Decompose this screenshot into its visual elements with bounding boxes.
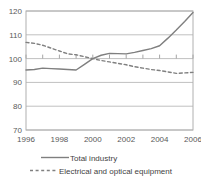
y-tick-label-120: 120 [9, 7, 23, 16]
x-tick-label-2006: 2006 [184, 135, 201, 144]
legend-label-total-industry: Total industry [70, 154, 117, 163]
x-tick-label-2004: 2004 [151, 135, 169, 144]
y-tick-label-80: 80 [13, 102, 22, 111]
x-tick-label-2000: 2000 [84, 135, 102, 144]
x-tick-label-1998: 1998 [51, 135, 69, 144]
y-tick-label-70: 70 [13, 126, 22, 135]
x-tick-label-2002: 2002 [117, 135, 135, 144]
y-axis-tick-labels: 708090100110120 [9, 7, 23, 135]
y-tick-label-110: 110 [9, 31, 22, 40]
legend-label-electrical: Electrical and optical equipment [59, 167, 173, 176]
y-tick-label-100: 100 [9, 55, 23, 64]
x-axis-tick-labels: 199619982000200220042006 [17, 135, 201, 144]
legend: Total industry Electrical and optical eq… [30, 154, 173, 176]
line-chart: 708090100110120 199619982000200220042006… [0, 0, 201, 182]
chart-svg: 708090100110120 199619982000200220042006… [0, 0, 201, 182]
y-tick-label-90: 90 [13, 78, 22, 87]
x-tick-label-1996: 1996 [17, 135, 35, 144]
plot-background [26, 11, 193, 130]
